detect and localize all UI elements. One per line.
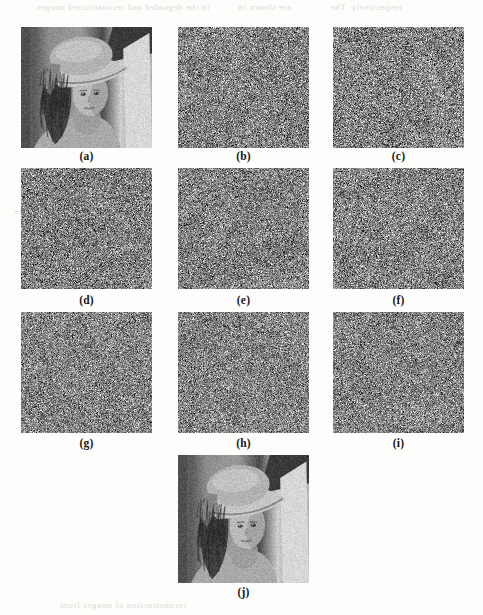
noise-image-e — [178, 168, 309, 289]
figure-panel-g — [21, 312, 152, 433]
panel-caption-g: (g) — [21, 437, 152, 449]
noise-image-d — [21, 168, 152, 289]
figure-panel-i — [333, 312, 464, 433]
noise-image-b — [178, 27, 309, 148]
panel-caption-h: (h) — [178, 437, 309, 449]
bleed-through-text: respectively. The — [330, 2, 401, 12]
panel-caption-f: (f) — [333, 294, 464, 306]
figure-panel-c — [333, 27, 464, 148]
panel-caption-j: (j) — [178, 586, 309, 598]
figure-panel-e — [178, 168, 309, 289]
noise-image-g — [21, 312, 152, 433]
bleed-through-text: are shown in — [238, 2, 291, 12]
panel-caption-a: (a) — [21, 150, 152, 162]
figure-panel-b — [178, 27, 309, 148]
figure-panel-a — [21, 27, 152, 148]
figure-panel-f — [333, 168, 464, 289]
panel-caption-b: (b) — [178, 150, 309, 162]
figure-page: in the degraded and reconstructed images… — [0, 0, 483, 615]
bleed-through-text: in the degraded and reconstructed images — [36, 2, 209, 12]
noise-image-i — [333, 312, 464, 433]
figure-panel-h — [178, 312, 309, 433]
panel-caption-e: (e) — [178, 294, 309, 306]
figure-panel-d — [21, 168, 152, 289]
photo-image-j — [178, 455, 309, 583]
noise-image-f — [333, 168, 464, 289]
panel-caption-d: (d) — [21, 294, 152, 306]
photo-image-a — [21, 27, 152, 148]
noise-image-c — [333, 27, 464, 148]
figure-panel-j — [178, 455, 309, 583]
noise-image-h — [178, 312, 309, 433]
bleed-through-text: reconstruction of images from — [60, 600, 186, 610]
panel-caption-i: (i) — [333, 437, 464, 449]
panel-caption-c: (c) — [333, 150, 464, 162]
